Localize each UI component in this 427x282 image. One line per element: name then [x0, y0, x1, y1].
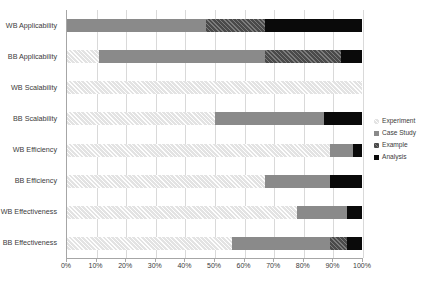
bar-segment	[341, 50, 362, 63]
y-axis-category-label: WB Efficiency	[13, 146, 57, 153]
bar-segment	[67, 50, 99, 63]
bar-segment	[347, 206, 362, 219]
bar-segment	[265, 50, 342, 63]
legend-item[interactable]: Experiment	[374, 116, 426, 127]
y-axis-category-label: BB Applicability	[8, 53, 57, 60]
y-axis-category-label: BB Efficiency	[15, 177, 57, 184]
bar-segment	[67, 175, 265, 188]
legend-item-label: Example	[382, 142, 408, 149]
bar-rows	[67, 10, 362, 258]
bar-segment	[265, 19, 362, 32]
bar-row	[67, 50, 362, 63]
x-axis-tick-label: 80%	[296, 262, 310, 269]
bar-segment	[67, 112, 215, 125]
x-axis-tick-label: 20%	[118, 262, 132, 269]
bar-segment	[232, 237, 329, 250]
bar-segment	[67, 237, 232, 250]
bar-row	[67, 144, 362, 157]
y-axis-category-labels: WB ApplicabilityBB ApplicabilityWB Scala…	[0, 10, 62, 259]
x-axis-tick-label: 40%	[177, 262, 191, 269]
bar-segment	[67, 144, 330, 157]
x-axis-tick-label: 100%	[353, 262, 371, 269]
chart-legend: ExperimentCase StudyExampleAnalysis	[374, 116, 426, 164]
legend-item[interactable]: Example	[374, 140, 426, 151]
legend-swatch-icon	[374, 143, 379, 148]
bar-segment	[206, 19, 265, 32]
stacked-bar-chart: WB ApplicabilityBB ApplicabilityWB Scala…	[0, 0, 427, 282]
x-axis-tick-label: 0%	[61, 262, 71, 269]
x-axis-tick-label: 90%	[325, 262, 339, 269]
bar-segment	[297, 206, 347, 219]
x-axis-tick-label: 30%	[148, 262, 162, 269]
x-axis-tick-labels: 0%10%20%30%40%50%60%70%80%90%100%	[66, 262, 362, 276]
y-axis-category-label: WB Applicability	[6, 22, 57, 29]
bar-segment	[353, 144, 362, 157]
bar-segment	[67, 81, 362, 94]
bar-segment	[265, 175, 330, 188]
y-axis-category-label: BB Scalability	[13, 115, 57, 122]
legend-item[interactable]: Case Study	[374, 128, 426, 139]
y-axis-category-label: WB Effectiveness	[1, 208, 57, 215]
bar-row	[67, 175, 362, 188]
x-axis-tick-label: 50%	[207, 262, 221, 269]
bar-row	[67, 81, 362, 94]
legend-swatch-icon	[374, 155, 379, 160]
bar-segment	[330, 237, 348, 250]
bar-segment	[324, 112, 362, 125]
y-axis-category-label: BB Effectiveness	[3, 239, 57, 246]
bar-row	[67, 112, 362, 125]
x-axis-tick-label: 10%	[89, 262, 103, 269]
bar-segment	[330, 175, 362, 188]
gridline	[363, 10, 364, 258]
bar-row	[67, 237, 362, 250]
x-axis-tick-label: 70%	[266, 262, 280, 269]
bar-segment	[99, 50, 264, 63]
bar-segment	[67, 19, 206, 32]
legend-item-label: Analysis	[382, 154, 407, 161]
legend-item-label: Experiment	[382, 118, 415, 125]
legend-swatch-icon	[374, 131, 379, 136]
legend-item[interactable]: Analysis	[374, 152, 426, 163]
bar-segment	[347, 237, 362, 250]
y-axis-category-label: WB Scalability	[11, 84, 57, 91]
legend-item-label: Case Study	[382, 130, 416, 137]
bar-row	[67, 19, 362, 32]
x-axis-tick-label: 60%	[237, 262, 251, 269]
bar-segment	[215, 112, 324, 125]
bar-segment	[67, 206, 297, 219]
bar-segment	[330, 144, 354, 157]
plot-area	[66, 10, 362, 259]
bar-row	[67, 206, 362, 219]
legend-swatch-icon	[374, 119, 379, 124]
